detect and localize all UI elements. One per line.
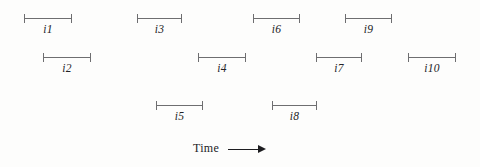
interval-bar bbox=[24, 18, 72, 19]
time-axis: Time bbox=[193, 141, 268, 156]
interval-label: i6 bbox=[253, 23, 300, 35]
interval-start-cap bbox=[272, 101, 273, 110]
interval-bar bbox=[316, 57, 362, 58]
interval-bar bbox=[198, 57, 246, 58]
interval-label: i7 bbox=[316, 62, 362, 74]
arrow-shaft bbox=[228, 149, 260, 150]
interval-end-cap bbox=[299, 14, 300, 23]
arrow-head bbox=[258, 145, 266, 153]
interval-label: i9 bbox=[345, 23, 392, 35]
interval-start-cap bbox=[198, 53, 199, 62]
interval-end-cap bbox=[391, 14, 392, 23]
interval-label: i2 bbox=[43, 62, 91, 74]
interval-end-cap bbox=[361, 53, 362, 62]
interval-bar bbox=[253, 18, 300, 19]
interval-bar bbox=[137, 18, 182, 19]
interval-label: i8 bbox=[272, 110, 317, 122]
interval-start-cap bbox=[156, 101, 157, 110]
interval-end-cap bbox=[71, 14, 72, 23]
interval-end-cap bbox=[181, 14, 182, 23]
interval-start-cap bbox=[137, 14, 138, 23]
interval-start-cap bbox=[24, 14, 25, 23]
interval-label: i3 bbox=[137, 23, 182, 35]
interval-bar bbox=[408, 57, 456, 58]
interval-bar bbox=[43, 57, 91, 58]
interval-label: i4 bbox=[198, 62, 246, 74]
interval-bar bbox=[345, 18, 392, 19]
interval-end-cap bbox=[455, 53, 456, 62]
interval-end-cap bbox=[202, 101, 203, 110]
interval-start-cap bbox=[345, 14, 346, 23]
interval-start-cap bbox=[43, 53, 44, 62]
interval-end-cap bbox=[316, 101, 317, 110]
interval-diagram: i1 i3 i6 i9 i2 i4 i7 bbox=[0, 0, 480, 167]
interval-start-cap bbox=[316, 53, 317, 62]
interval-start-cap bbox=[253, 14, 254, 23]
interval-label: i5 bbox=[156, 110, 203, 122]
interval-bar bbox=[272, 105, 317, 106]
interval-end-cap bbox=[90, 53, 91, 62]
interval-start-cap bbox=[408, 53, 409, 62]
interval-end-cap bbox=[245, 53, 246, 62]
right-arrow-icon bbox=[228, 144, 268, 154]
interval-label: i10 bbox=[408, 62, 456, 74]
interval-label: i1 bbox=[24, 23, 72, 35]
time-axis-label: Time bbox=[193, 141, 219, 156]
interval-bar bbox=[156, 105, 203, 106]
